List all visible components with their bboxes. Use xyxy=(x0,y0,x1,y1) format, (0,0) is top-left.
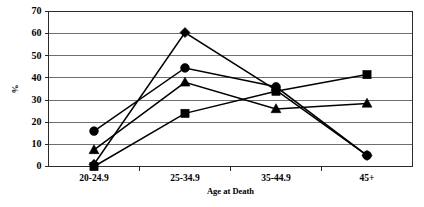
marker-circle xyxy=(181,64,190,73)
gridlines xyxy=(45,12,413,167)
y-tick-label: 20 xyxy=(32,116,42,127)
marker-circle xyxy=(363,151,372,160)
marker-square xyxy=(363,71,371,79)
marker-circle xyxy=(90,127,99,136)
series-line-triangle xyxy=(94,82,367,150)
marker-square xyxy=(181,109,189,117)
y-tick-label: 10 xyxy=(32,138,42,149)
series-lines xyxy=(94,33,367,167)
y-axis-title: % xyxy=(10,85,20,94)
series-markers xyxy=(89,28,372,171)
x-tick-label: 25-34.9 xyxy=(170,173,200,183)
x-axis-tick-labels: 20-24.925-34.935-44.945+ xyxy=(79,173,374,183)
marker-circle xyxy=(272,82,281,91)
y-axis-tick-labels: 010203040506070 xyxy=(32,5,42,171)
marker-square xyxy=(90,162,98,170)
line-chart: 01020304050607020-24.925-34.935-44.945+A… xyxy=(0,0,424,207)
y-tick-label: 0 xyxy=(37,160,42,171)
x-tick-label: 20-24.9 xyxy=(79,173,109,183)
marker-triangle xyxy=(362,98,372,107)
marker-triangle xyxy=(180,77,190,86)
marker-diamond xyxy=(180,28,190,38)
x-tick-label: 45+ xyxy=(360,173,375,183)
y-tick-label: 60 xyxy=(32,27,42,38)
marker-triangle xyxy=(89,145,99,154)
series-line-square xyxy=(94,75,367,167)
y-tick-label: 30 xyxy=(32,94,42,105)
y-tick-label: 40 xyxy=(32,72,42,83)
x-axis-title: Age at Death xyxy=(207,186,254,196)
chart-canvas: 01020304050607020-24.925-34.935-44.945+A… xyxy=(0,0,424,207)
x-tick-label: 35-44.9 xyxy=(261,173,291,183)
y-tick-label: 70 xyxy=(32,5,42,16)
y-tick-label: 50 xyxy=(32,50,42,61)
